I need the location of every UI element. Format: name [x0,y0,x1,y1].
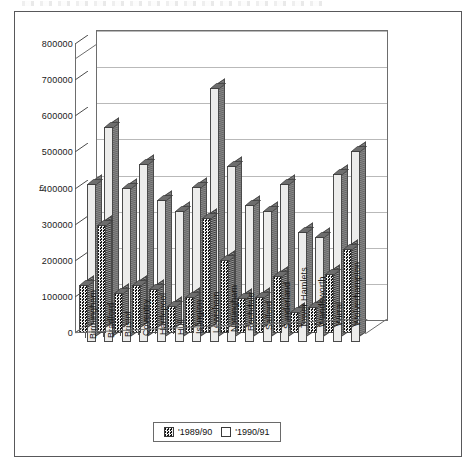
bar-top-face [220,255,236,261]
bar-top-face [87,179,103,185]
bar-top-face [157,195,173,201]
legend-label-1990-91: '1990/91 [235,427,269,437]
bar-top-face [132,280,148,286]
y-tick-mark [75,35,88,44]
bar-top-face [255,292,271,298]
plot-area: 0100000200000300000400000500000600000700… [75,30,395,340]
bar-top-face [245,200,261,206]
bar-top-face [333,169,349,175]
bar-top-face [175,206,191,212]
gridline [97,103,387,104]
bar-top-face [192,182,208,188]
legend-item: '1989/90 [164,427,212,437]
bar-top-face [167,301,183,307]
bar-top-face [185,292,201,298]
bar-top-face [227,161,243,167]
legend-swatch-1990-91 [221,427,231,437]
bar-top-face [263,206,279,212]
y-tick-mark [75,143,88,152]
x-tick-label: Wolverhampton [352,261,362,325]
y-tick-label: 300000 [42,220,73,230]
bar-top-face [139,159,155,165]
bar-top-face [315,232,331,238]
y-tick-mark [75,71,88,80]
y-tick-mark [75,107,88,116]
legend-swatch-1989-90 [164,427,174,437]
gridline [97,139,387,140]
y-tick-label: 500000 [42,147,73,157]
y-tick-label: 400000 [42,184,73,194]
y-tick-label: 200000 [42,256,73,266]
bar-top-face [325,269,341,275]
gridline [97,31,387,32]
bar-top-face [351,146,367,152]
plot-floor-edge [75,318,388,338]
bar-top-face [149,284,165,290]
y-tick-label: 700000 [42,75,73,85]
bar-top-face [273,271,289,277]
y-tick-label: 600000 [42,111,73,121]
y-axis-title: £ [39,183,44,193]
chart-frame: 0100000200000300000400000500000600000700… [14,11,462,457]
bar-top-face [122,183,138,189]
bar-top-face [104,122,120,128]
scan-artifact-line [22,1,322,6]
bar-top-face [298,227,314,233]
bar-top-face [97,220,113,226]
legend-label-1989-90: '1989/90 [178,427,212,437]
bar-top-face [343,244,359,250]
bar-top-face [79,280,95,286]
legend-item: '1990/91 [221,427,269,437]
y-tick-label: 800000 [42,39,73,49]
bar-top-face [114,288,130,294]
y-tick-label: 0 [68,328,73,338]
bar-top-face [280,179,296,185]
bar-top-face [202,213,218,219]
gridline [97,67,387,68]
bar-top-face [210,83,226,89]
axis-skew-top [75,44,97,59]
y-tick-label: 100000 [42,292,73,302]
chart-legend: '1989/90 '1990/91 [153,422,281,442]
